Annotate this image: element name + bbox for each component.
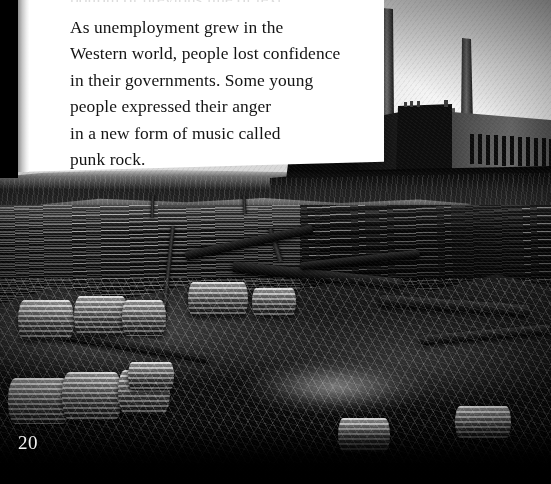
- page-left-margin-bar: [0, 0, 18, 178]
- book-page: bottom of previous line of text As unemp…: [0, 0, 551, 484]
- text-panel: bottom of previous line of text As unemp…: [18, 0, 384, 172]
- previous-line-bleed: bottom of previous line of text: [70, 0, 370, 2]
- debris-speckle-texture: [0, 278, 551, 463]
- station-turbine-hall: [396, 104, 452, 176]
- page-number: 20: [18, 432, 38, 454]
- text-panel-left-edge: [18, 0, 29, 172]
- chimney-short-icon: [461, 38, 473, 124]
- body-paragraph: As unemployment grew in the Western worl…: [70, 14, 386, 172]
